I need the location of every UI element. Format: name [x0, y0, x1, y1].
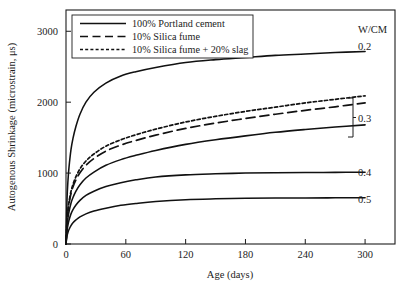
- legend-label-portland-cement: 100% Portland cement: [132, 18, 225, 29]
- y-tick-label: 1000: [37, 168, 58, 179]
- x-tick-label: 240: [297, 249, 313, 260]
- legend-label-silica-fume: 10% Silica fume: [132, 31, 200, 42]
- autogenous-shrinkage-chart: 0100020003000 060120180240300 Age (days)…: [0, 0, 411, 295]
- legend: 100% Portland cement 10% Silica fume 10%…: [72, 15, 253, 58]
- data-curves: [66, 51, 365, 244]
- annotation-wcm-0.3: 0.3: [358, 113, 371, 124]
- y-axis-title: Autogenous Shrinkage (microstrain, μs): [6, 42, 18, 211]
- annotation-wcm-header: W/CM: [358, 24, 388, 35]
- x-tick-label: 300: [357, 249, 373, 260]
- legend-label-silica-fume-slag: 10% Silica fume + 20% slag: [132, 44, 248, 55]
- y-tick-label: 2000: [37, 97, 58, 108]
- annotation-wcm-0.2: 0.2: [358, 41, 371, 52]
- x-tick-label: 60: [121, 249, 132, 260]
- curve-wcm-0.5-solid: [66, 198, 365, 244]
- annotation-wcm-0.4: 0.4: [358, 167, 372, 178]
- annotation-wcm-0.5: 0.5: [358, 194, 371, 205]
- chart-container: 0100020003000 060120180240300 Age (days)…: [0, 0, 411, 295]
- curve-wcm-0.4-solid: [66, 172, 365, 244]
- y-tick-label: 3000: [37, 26, 58, 37]
- x-tick-label: 0: [63, 249, 68, 260]
- x-axis-ticks: 060120180240300: [63, 239, 373, 260]
- x-tick-label: 180: [238, 249, 254, 260]
- y-tick-label: 0: [53, 239, 58, 250]
- curve-wcm-0.2-solid: [66, 51, 365, 244]
- curve-wcm-0.3-dotted: [66, 96, 365, 244]
- x-tick-label: 120: [178, 249, 194, 260]
- x-axis-title: Age (days): [207, 269, 254, 281]
